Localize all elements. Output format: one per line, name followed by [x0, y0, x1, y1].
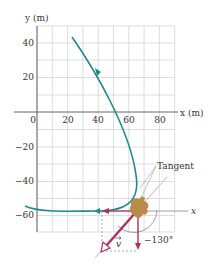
- local-x-label: x: [191, 206, 196, 216]
- x-tick: 40: [92, 115, 104, 125]
- x-axis-label: x (m): [180, 108, 204, 118]
- tangent-leader: [140, 166, 156, 188]
- x-tick: 80: [154, 115, 166, 125]
- tangent-label: Tangent: [157, 161, 194, 171]
- arrowhead-icon: [102, 208, 109, 214]
- x-tick: 0: [30, 115, 36, 125]
- y-tick: −40: [15, 176, 34, 186]
- y-tick: −60: [15, 210, 34, 220]
- y-tick: 40: [23, 38, 35, 48]
- y-tick-labels: 40 20 −20 −40 −60: [15, 38, 34, 220]
- y-axis-label: y (m): [24, 13, 49, 23]
- axes: [14, 26, 178, 232]
- rabbit-path: [25, 37, 137, 211]
- arrowhead-icon: [135, 243, 141, 250]
- y-tick: 20: [23, 72, 35, 82]
- x-tick-labels: 0 20 40 60 80: [30, 115, 166, 125]
- y-tick: −20: [15, 142, 34, 152]
- angle-label: −130°: [144, 235, 173, 245]
- rabbit-trajectory-diagram: y (m) x (m) 0 20 40 60 80 40 20 −20 −40 …: [0, 0, 214, 278]
- grid: [37, 26, 175, 232]
- velocity-label: v: [116, 239, 121, 249]
- x-tick: 60: [123, 115, 135, 125]
- x-tick: 20: [62, 115, 74, 125]
- path-direction-arrow-icon: [94, 208, 100, 214]
